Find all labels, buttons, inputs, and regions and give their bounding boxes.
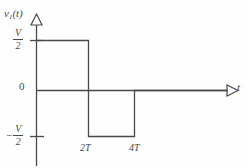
fraction-denominator: 2 [13, 136, 23, 147]
fraction-positive: V 2 [13, 28, 23, 51]
waveform-trace [37, 41, 229, 137]
waveform-figure: v1(t) t 0 V 2 − V 2 2T 4T [0, 0, 249, 168]
origin-label: 0 [19, 81, 25, 92]
fraction-numerator: V [13, 124, 23, 136]
x-axis-label: t [237, 82, 240, 93]
fraction-numerator: V [13, 28, 23, 40]
x-tick-label-2t: 2T [80, 143, 91, 153]
fraction-negative: V 2 [13, 124, 23, 147]
waveform-plot [0, 0, 249, 168]
x-tick-label-4t: 4T [129, 143, 140, 153]
y-axis-label: v1(t) [4, 8, 23, 21]
y-axis-arrowhead-icon [31, 14, 42, 25]
fraction-denominator: 2 [13, 40, 23, 51]
y-axis-label-suffix: (t) [12, 7, 22, 19]
minus-sign: − [6, 130, 13, 141]
y-tick-label-positive: V 2 [13, 28, 23, 51]
y-tick-label-negative: − V 2 [6, 124, 23, 147]
